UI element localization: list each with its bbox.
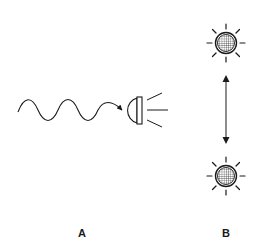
panel-label-b: B <box>222 227 230 239</box>
sun-top-icon <box>207 24 245 62</box>
wavy-arrow <box>18 100 122 121</box>
emitted-rays <box>147 93 168 127</box>
receiver-dome-icon <box>128 97 142 124</box>
panel-label-a: A <box>78 227 86 239</box>
panel-a <box>18 93 168 127</box>
panel-b <box>207 24 245 195</box>
double-arrow <box>223 75 230 144</box>
sun-bottom-icon <box>207 157 245 195</box>
diagram-canvas <box>0 0 268 251</box>
